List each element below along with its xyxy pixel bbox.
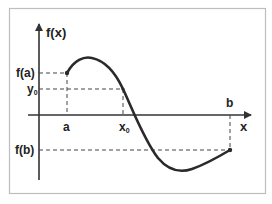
x-axis-label: x [240, 119, 248, 134]
b-label: b [226, 96, 233, 110]
diagram-canvas: f(x) x f(a) y0 f(b) a x0 b [0, 0, 272, 204]
point-x0 [121, 87, 124, 90]
fa-label: f(a) [16, 66, 35, 80]
a-label: a [63, 120, 70, 134]
y-axis-label: f(x) [46, 25, 66, 40]
point-a [65, 71, 69, 75]
fb-label: f(b) [15, 143, 34, 157]
point-b [228, 148, 232, 152]
